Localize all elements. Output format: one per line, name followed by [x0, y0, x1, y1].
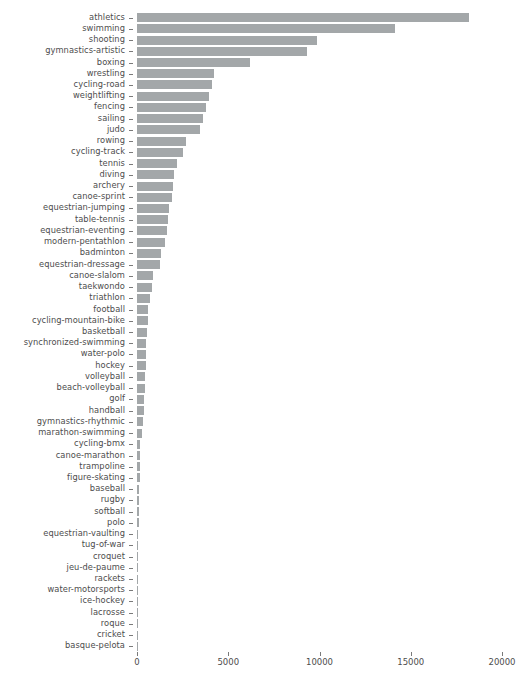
- y-tick-label: badminton: [80, 248, 125, 257]
- y-tick-mark: [129, 18, 133, 19]
- y-tick-label: canoe-sprint: [73, 192, 126, 201]
- y-tick-label: football: [93, 305, 125, 314]
- y-tick-label: fencing: [94, 102, 125, 111]
- y-tick-label: equestrian-dressage: [39, 260, 125, 269]
- bar: [137, 80, 212, 89]
- y-tick-mark: [129, 523, 133, 524]
- bar: [137, 58, 250, 67]
- bars-layer: [137, 12, 502, 652]
- bar: [137, 226, 167, 235]
- bar: [137, 249, 161, 258]
- y-tick-mark: [129, 29, 133, 30]
- y-tick-mark: [129, 40, 133, 41]
- y-tick-label: canoe-marathon: [56, 451, 125, 460]
- y-tick-label: basque-pelota: [65, 641, 125, 650]
- y-tick-mark: [129, 265, 133, 266]
- bar: [137, 182, 173, 191]
- y-tick-label: roque: [101, 619, 125, 628]
- bar: [137, 451, 140, 460]
- bar: [137, 283, 152, 292]
- bar: [137, 631, 138, 640]
- y-tick-label: softball: [94, 507, 125, 516]
- bar: [137, 395, 144, 404]
- x-tick-label: 5000: [217, 657, 239, 667]
- y-tick-mark: [129, 646, 133, 647]
- x-tick-label: 0: [134, 657, 139, 667]
- y-tick-mark: [129, 433, 133, 434]
- bar: [137, 462, 140, 471]
- y-tick-mark: [129, 197, 133, 198]
- bar: [137, 36, 317, 45]
- bar: [137, 193, 172, 202]
- y-tick-mark: [129, 444, 133, 445]
- bar: [137, 417, 143, 426]
- x-tick-mark: [137, 652, 138, 656]
- bar: [137, 328, 147, 337]
- y-tick-label: judo: [107, 125, 125, 134]
- y-tick-label: volleyball: [85, 372, 125, 381]
- y-tick-mark: [129, 478, 133, 479]
- y-tick-mark: [129, 624, 133, 625]
- bar: [137, 47, 307, 56]
- bar: [137, 114, 203, 123]
- bar: [137, 13, 469, 22]
- bar: [137, 361, 146, 370]
- y-tick-label: polo: [107, 518, 125, 527]
- y-tick-label: lacrosse: [91, 608, 125, 617]
- y-tick-label: rugby: [101, 495, 125, 504]
- bar: [137, 24, 395, 33]
- bar: [137, 170, 174, 179]
- y-tick-mark: [129, 366, 133, 367]
- bar: [137, 215, 168, 224]
- bar: [137, 316, 148, 325]
- x-tick-label: 15000: [397, 657, 424, 667]
- bar: [137, 372, 145, 381]
- y-tick-label: canoe-slalom: [69, 271, 125, 280]
- y-tick-label: weightlifting: [73, 91, 125, 100]
- y-tick-mark: [129, 534, 133, 535]
- y-tick-mark: [129, 119, 133, 120]
- bar: [137, 563, 138, 572]
- y-tick-label: tug-of-war: [82, 540, 125, 549]
- y-tick-label: modern-pentathlon: [44, 237, 125, 246]
- y-axis-category-labels: athleticsswimmingshootinggymnastics-arti…: [0, 12, 137, 652]
- bar: [137, 406, 144, 415]
- y-tick-mark: [129, 422, 133, 423]
- y-tick-label: croquet: [93, 552, 125, 561]
- bar: [137, 305, 148, 314]
- bar: [137, 384, 145, 393]
- y-tick-mark: [129, 601, 133, 602]
- bar: [137, 429, 142, 438]
- y-tick-label: tennis: [99, 159, 125, 168]
- y-tick-label: equestrian-eventing: [40, 226, 125, 235]
- y-tick-mark: [129, 467, 133, 468]
- y-tick-mark: [129, 500, 133, 501]
- bar: [137, 552, 138, 561]
- bar: [137, 530, 138, 539]
- y-tick-mark: [129, 220, 133, 221]
- y-tick-mark: [129, 74, 133, 75]
- bar: [137, 148, 183, 157]
- bar: [137, 125, 200, 134]
- y-tick-mark: [129, 456, 133, 457]
- y-tick-label: cycling-mountain-bike: [32, 316, 125, 325]
- y-tick-label: equestrian-jumping: [43, 203, 125, 212]
- y-tick-label: wrestling: [87, 69, 125, 78]
- bar: [137, 271, 153, 280]
- y-tick-mark: [129, 354, 133, 355]
- y-tick-label: archery: [93, 181, 125, 190]
- bar: [137, 103, 206, 112]
- y-tick-mark: [129, 310, 133, 311]
- x-tick-mark: [320, 652, 321, 656]
- y-tick-mark: [129, 253, 133, 254]
- bar: [137, 294, 150, 303]
- bar: [137, 204, 169, 213]
- y-tick-mark: [129, 399, 133, 400]
- y-tick-mark: [129, 152, 133, 153]
- x-tick-mark: [411, 652, 412, 656]
- x-axis: 05000100001500020000: [137, 652, 502, 685]
- y-tick-mark: [129, 130, 133, 131]
- y-tick-mark: [129, 186, 133, 187]
- bar: [137, 541, 138, 550]
- y-tick-mark: [129, 231, 133, 232]
